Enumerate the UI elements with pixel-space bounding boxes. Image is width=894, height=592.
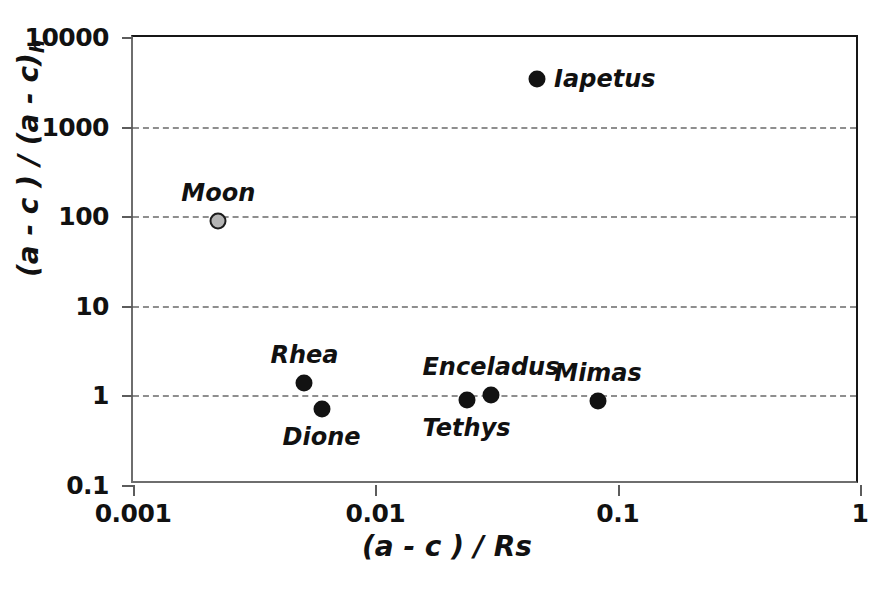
x-axis-tick-label: 1	[852, 499, 869, 528]
y-axis-tick	[122, 127, 133, 129]
data-point-mimas	[590, 393, 607, 410]
data-point-label-mimas: Mimas	[554, 359, 642, 387]
data-point-tethys	[458, 392, 475, 409]
x-axis-tick-label: 0.001	[95, 499, 172, 528]
y-axis-tick-label: 1	[92, 381, 109, 410]
gridline	[133, 306, 856, 308]
x-axis-tick-label: 0.1	[596, 499, 639, 528]
y-axis-tick	[122, 216, 133, 218]
data-point-label-moon: Moon	[181, 179, 255, 207]
data-point-moon	[210, 213, 227, 230]
plot-area: 0.1110100100010000 0.0010.010.11 Iapetus…	[131, 35, 858, 483]
scatter-plot-figure: (a - c ) / (a - c)h (a - c ) / Rs 0.1110…	[0, 0, 894, 592]
y-axis-tick-label: 10	[75, 291, 109, 320]
data-point-label-dione: Dione	[283, 423, 361, 451]
data-point-label-iapetus: Iapetus	[554, 65, 655, 93]
y-axis-tick-label: 10000	[25, 23, 109, 52]
gridline	[133, 127, 856, 129]
y-axis-tick	[122, 395, 133, 397]
x-axis-tick	[618, 485, 620, 496]
y-axis-tick-label: 1000	[41, 112, 109, 141]
y-axis-title-main: (a - c ) / (a - c)	[12, 53, 45, 277]
x-axis-title: (a - c ) / Rs	[0, 530, 894, 563]
gridline	[133, 216, 856, 218]
y-axis-tick-label: 0.1	[66, 471, 109, 500]
data-point-label-tethys: Tethys	[423, 414, 511, 442]
y-axis-tick	[122, 37, 133, 39]
x-axis-tick	[375, 485, 377, 496]
x-axis-tick	[860, 485, 862, 496]
data-point-iapetus	[529, 70, 546, 87]
y-axis-tick	[122, 485, 133, 487]
x-axis-tick-label: 0.01	[345, 499, 405, 528]
data-point-rhea	[296, 374, 313, 391]
data-point-label-rhea: Rhea	[270, 341, 338, 369]
data-point-enceladus	[482, 386, 499, 403]
y-axis-tick-label: 100	[58, 202, 109, 231]
data-point-dione	[313, 400, 330, 417]
x-axis-tick	[133, 485, 135, 496]
y-axis-tick	[122, 306, 133, 308]
data-point-label-enceladus: Enceladus	[422, 353, 559, 381]
